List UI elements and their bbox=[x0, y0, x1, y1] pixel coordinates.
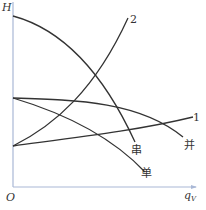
curve-label-system-2: 2 bbox=[130, 13, 137, 26]
pump-characteristic-diagram: H O qV 2 1 串 并 单 bbox=[0, 0, 206, 210]
curve-label-single: 单 bbox=[141, 167, 152, 180]
x-axis-label: qV bbox=[184, 189, 197, 203]
curve-label-parallel: 并 bbox=[184, 138, 195, 152]
origin-label: O bbox=[6, 191, 15, 204]
curve-label-series: 串 bbox=[131, 144, 142, 157]
curve-label-system-1: 1 bbox=[193, 111, 200, 124]
curve-system-2 bbox=[13, 18, 128, 146]
y-axis-label: H bbox=[1, 1, 12, 14]
curve-series bbox=[13, 16, 135, 142]
curve-system-1 bbox=[13, 117, 193, 146]
x-axis-arrow-icon bbox=[191, 185, 197, 189]
